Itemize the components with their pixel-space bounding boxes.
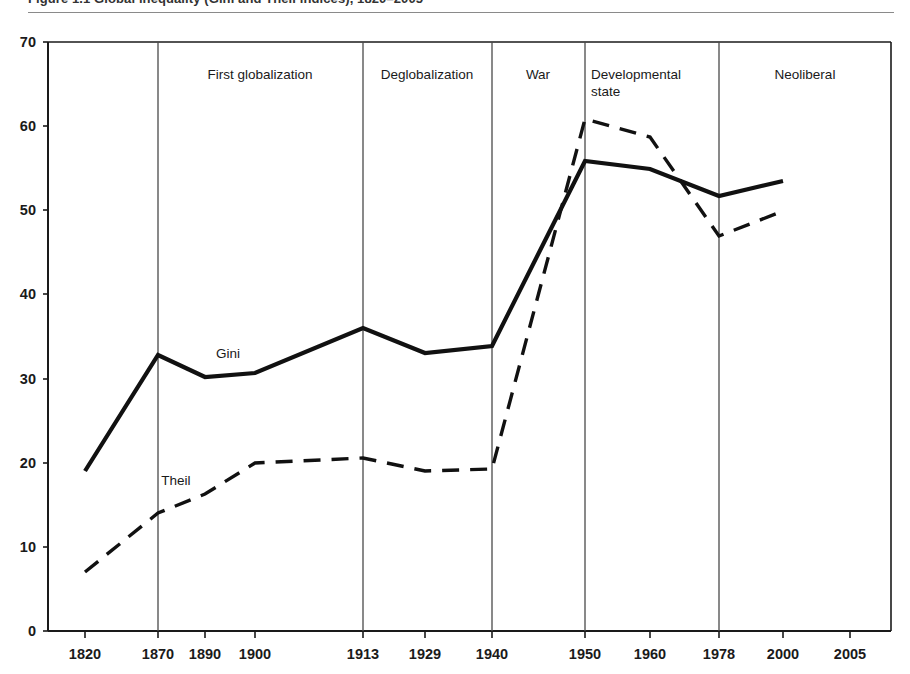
figure-root: Figure 1.1 Global inequality (Gini and T… (0, 0, 910, 674)
period-dividers (158, 42, 719, 631)
x-axis-label-1929: 1929 (409, 646, 441, 662)
x-axis-label-1960: 1960 (634, 646, 666, 662)
period-label-war: War (526, 67, 551, 82)
y-axis-labels: 0 10 20 30 40 50 60 70 (20, 34, 36, 639)
x-axis-label-1900: 1900 (239, 646, 271, 662)
y-axis-label-70: 70 (20, 34, 36, 50)
x-axis-label-1820: 1820 (69, 646, 101, 662)
series-inline-labels: Gini Theil (161, 346, 240, 488)
x-axis-label-2005: 2005 (834, 646, 866, 662)
period-label-developmental-state-line1: Developmental (591, 67, 681, 82)
y-axis-label-20: 20 (20, 455, 36, 471)
gini-polyline (85, 161, 783, 471)
y-axis-label-60: 60 (20, 118, 36, 134)
x-axis-label-1870: 1870 (142, 646, 174, 662)
y-axis-label-0: 0 (28, 623, 36, 639)
period-label-deglobalization: Deglobalization (381, 67, 473, 82)
series-gini-line (85, 161, 783, 471)
series-label-gini: Gini (216, 346, 240, 361)
inequality-line-chart: 0 10 20 30 40 50 60 70 1820 1870 1 (0, 0, 910, 674)
plot-frame (48, 42, 891, 631)
x-axis-label-1913: 1913 (347, 646, 379, 662)
period-label-first-globalization: First globalization (207, 67, 312, 82)
x-axis-label-1978: 1978 (703, 646, 735, 662)
period-labels: First globalization Deglobalization War … (207, 67, 835, 99)
series-label-theil: Theil (161, 473, 190, 488)
series-theil-line (85, 119, 783, 572)
x-axis-label-1950: 1950 (569, 646, 601, 662)
x-axis-label-2000: 2000 (767, 646, 799, 662)
x-axis-label-1940: 1940 (476, 646, 508, 662)
x-axis-ticks (85, 631, 850, 638)
x-axis-label-1890: 1890 (189, 646, 221, 662)
period-label-developmental-state-line2: state (591, 84, 620, 99)
period-label-neoliberal: Neoliberal (775, 67, 836, 82)
y-axis-label-40: 40 (20, 286, 36, 302)
y-axis-label-30: 30 (20, 371, 36, 387)
x-axis-labels: 1820 1870 1890 1900 1913 1929 1940 1950 … (69, 646, 866, 662)
y-axis-label-10: 10 (20, 539, 36, 555)
y-axis-label-50: 50 (20, 202, 36, 218)
theil-polyline (85, 119, 783, 572)
